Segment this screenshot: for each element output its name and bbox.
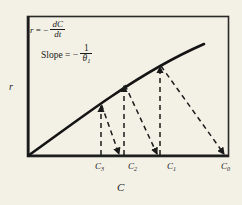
slope-equation: Slope = − 1 θ1 <box>41 45 92 66</box>
slope-equation-lhs: Slope <box>41 50 63 60</box>
rate-equation-operator: = − <box>36 25 48 35</box>
rate-equation: r = − dC dt <box>30 21 65 40</box>
construction-diagonal-c1-c0 <box>161 66 224 154</box>
slope-equation-denominator: θ1 <box>80 53 92 64</box>
slope-equation-fraction: 1 θ1 <box>80 44 92 65</box>
slope-equation-operator: = − <box>65 50 78 60</box>
slope-equation-denominator-subscript: 1 <box>87 57 90 64</box>
construction-diagonal-c3-c2 <box>102 105 119 154</box>
tick-label-c3: C3 <box>95 161 104 172</box>
tick-label-c1: C1 <box>167 161 176 172</box>
rate-equation-numerator: dC <box>50 20 65 29</box>
x-axis-label: C <box>117 181 124 193</box>
rate-equation-denominator: dt <box>50 29 65 39</box>
construction-diagonal-c2-c1 <box>125 85 157 154</box>
rate-equation-fraction: dC dt <box>50 20 65 39</box>
tick-label-c0: C0 <box>221 161 230 172</box>
rate-equation-lhs: r <box>30 25 34 35</box>
slope-equation-numerator: 1 <box>80 44 92 54</box>
y-axis-label: r <box>9 81 13 92</box>
tick-label-c2: C2 <box>128 161 137 172</box>
